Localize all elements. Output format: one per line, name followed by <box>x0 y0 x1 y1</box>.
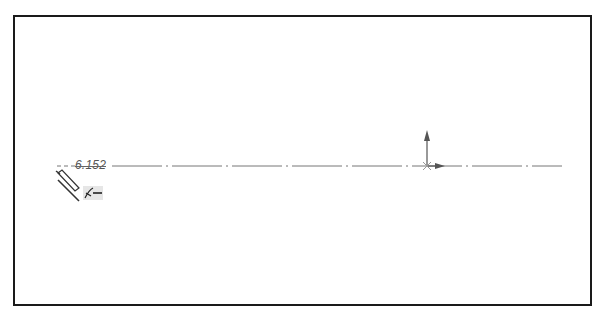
tangent-relation-badge <box>83 186 103 200</box>
dimension-value[interactable]: 6.152 <box>75 158 106 172</box>
origin-icon <box>423 130 445 170</box>
tangent-relation-icon <box>83 186 103 200</box>
